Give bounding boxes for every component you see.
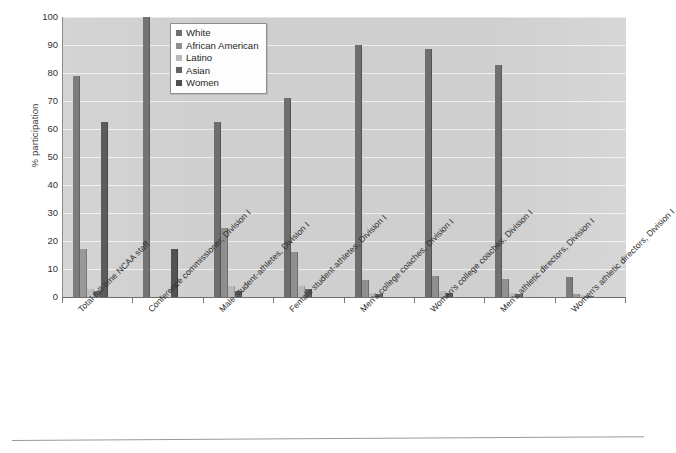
bar xyxy=(214,122,221,297)
x-tick-mark xyxy=(625,298,626,303)
x-tick-mark xyxy=(62,298,63,303)
y-axis-tick-labels: 0102030405060708090100 xyxy=(30,17,58,297)
chart-legend: WhiteAfrican AmericanLatinoAsianWomen xyxy=(170,23,267,94)
legend-label: African American xyxy=(186,41,259,51)
legend-label: Latino xyxy=(186,53,212,63)
legend-swatch-icon xyxy=(176,67,182,73)
bar-group xyxy=(425,17,460,297)
bar xyxy=(502,279,509,297)
legend-item: Latino xyxy=(176,52,259,64)
x-tick-mark xyxy=(203,298,204,303)
y-tick-label: 10 xyxy=(32,264,58,274)
x-tick-mark xyxy=(132,298,133,303)
bar xyxy=(362,280,369,297)
y-tick-label: 20 xyxy=(32,236,58,246)
y-tick-label: 30 xyxy=(32,208,58,218)
bar xyxy=(143,17,150,297)
legend-swatch-icon xyxy=(176,43,182,49)
y-tick-label: 90 xyxy=(32,40,58,50)
bar xyxy=(495,65,502,297)
legend-label: Women xyxy=(186,78,219,88)
bar-group xyxy=(566,17,601,297)
bar xyxy=(101,122,108,297)
legend-swatch-icon xyxy=(176,80,182,86)
x-tick-mark xyxy=(484,298,485,303)
x-tick-mark xyxy=(414,298,415,303)
page-divider-rule xyxy=(12,436,644,441)
bar xyxy=(432,276,439,297)
legend-item: African American xyxy=(176,39,259,51)
legend-item: Asian xyxy=(176,64,259,76)
bar xyxy=(355,45,362,297)
bar-group xyxy=(355,17,390,297)
bar xyxy=(284,98,291,297)
y-tick-label: 60 xyxy=(32,124,58,134)
bar xyxy=(73,76,80,297)
bar xyxy=(80,249,87,297)
y-tick-label: 100 xyxy=(32,12,58,22)
bar xyxy=(566,277,573,297)
legend-label: Asian xyxy=(186,66,210,76)
bar-group xyxy=(495,17,530,297)
bar-group xyxy=(284,17,319,297)
x-tick-mark xyxy=(273,298,274,303)
bar-group xyxy=(73,17,108,297)
legend-item: White xyxy=(176,27,259,39)
x-tick-mark xyxy=(555,298,556,303)
bar xyxy=(291,252,298,297)
legend-swatch-icon xyxy=(176,30,182,36)
legend-swatch-icon xyxy=(176,55,182,61)
y-tick-label: 80 xyxy=(32,68,58,78)
y-tick-label: 0 xyxy=(32,292,58,302)
x-tick-mark xyxy=(344,298,345,303)
legend-item: Women xyxy=(176,77,259,89)
bar xyxy=(425,49,432,297)
y-tick-label: 40 xyxy=(32,180,58,190)
y-tick-label: 70 xyxy=(32,96,58,106)
y-tick-label: 50 xyxy=(32,152,58,162)
legend-label: White xyxy=(186,28,211,38)
